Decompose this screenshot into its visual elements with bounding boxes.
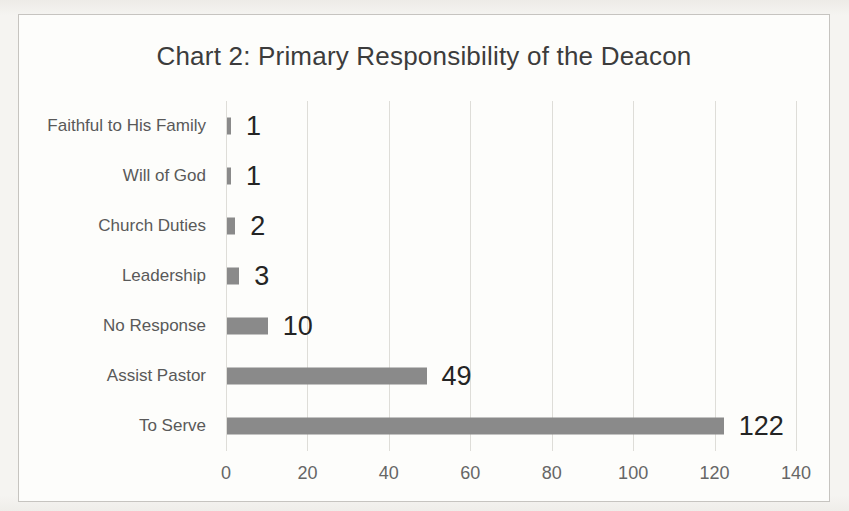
bar xyxy=(227,168,231,185)
x-tick-label: 40 xyxy=(379,463,399,484)
value-label: 10 xyxy=(283,311,313,342)
category-label: Church Duties xyxy=(98,216,206,236)
gridline xyxy=(796,101,797,451)
value-label: 1 xyxy=(246,111,261,142)
value-label: 1 xyxy=(246,161,261,192)
bar-row: Leadership3 xyxy=(226,251,796,301)
x-tick-label: 140 xyxy=(781,463,811,484)
value-label: 122 xyxy=(739,411,784,442)
value-label: 49 xyxy=(442,361,472,392)
bar-row: Will of God1 xyxy=(226,151,796,201)
category-label: To Serve xyxy=(139,416,206,436)
chart-title: Chart 2: Primary Responsibility of the D… xyxy=(19,41,829,72)
x-tick-label: 120 xyxy=(700,463,730,484)
value-label: 2 xyxy=(250,211,265,242)
category-label: Faithful to His Family xyxy=(47,116,206,136)
x-axis: 020406080100120140 xyxy=(226,461,796,487)
bar-row: Church Duties2 xyxy=(226,201,796,251)
category-label: No Response xyxy=(103,316,206,336)
bar xyxy=(227,218,235,235)
category-label: Leadership xyxy=(122,266,206,286)
bar-row: To Serve122 xyxy=(226,401,796,451)
category-label: Assist Pastor xyxy=(107,366,206,386)
x-tick-label: 100 xyxy=(618,463,648,484)
category-label: Will of God xyxy=(123,166,206,186)
chart-frame: Chart 2: Primary Responsibility of the D… xyxy=(18,14,830,502)
x-tick-label: 20 xyxy=(297,463,317,484)
x-tick-label: 60 xyxy=(460,463,480,484)
bar-row: Assist Pastor49 xyxy=(226,351,796,401)
bar xyxy=(227,368,427,385)
bar-row: Faithful to His Family1 xyxy=(226,101,796,151)
x-tick-label: 0 xyxy=(221,463,231,484)
bar xyxy=(227,418,724,435)
bar xyxy=(227,118,231,135)
plot-area: Faithful to His Family1Will of God1Churc… xyxy=(226,101,796,451)
bar xyxy=(227,268,239,285)
bar-row: No Response10 xyxy=(226,301,796,351)
x-tick-label: 80 xyxy=(542,463,562,484)
bar xyxy=(227,318,268,335)
value-label: 3 xyxy=(254,261,269,292)
